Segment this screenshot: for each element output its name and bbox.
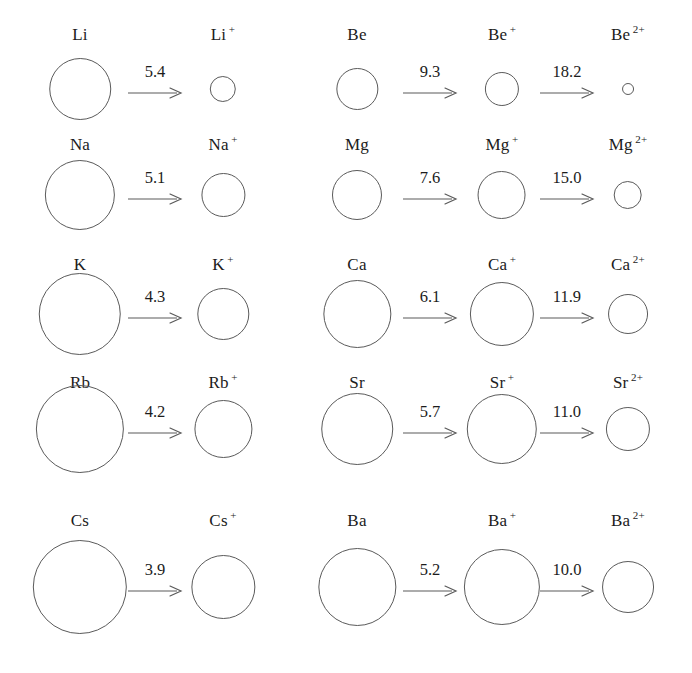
atom-circle xyxy=(332,170,382,220)
arrow-right-icon xyxy=(402,311,458,325)
atom-circle xyxy=(201,173,245,217)
element-symbol: K xyxy=(74,255,86,274)
atom-circle xyxy=(602,561,654,613)
ionization-energy-value: 5.7 xyxy=(402,404,458,421)
species-li-plus-group: Li+ xyxy=(211,26,235,47)
element-symbol: Cs xyxy=(209,511,227,530)
species-rb-plus-group: Rb+ xyxy=(208,374,237,395)
ionization-energy-value: 5.4 xyxy=(127,64,183,81)
species-na-group: Na xyxy=(70,136,90,157)
species-mg-plus-group: Mg+ xyxy=(486,136,519,157)
charge-superscript: + xyxy=(508,371,514,383)
arrow-right-icon xyxy=(402,426,458,440)
ionization-energy-value: 11.9 xyxy=(539,289,595,306)
charge-superscript: 2+ xyxy=(631,371,643,383)
species-label: Cs+ xyxy=(209,512,236,529)
arrow-right-icon xyxy=(539,426,595,440)
ionization-step: 10.0 xyxy=(539,562,595,598)
species-mg-group: Mg xyxy=(345,136,369,157)
atom-circle xyxy=(608,294,648,334)
element-symbol: Li xyxy=(72,25,88,44)
arrow-right-icon xyxy=(402,584,458,598)
element-symbol: Ba xyxy=(347,511,366,530)
species-label: Be+ xyxy=(488,26,516,43)
species-label: Sr xyxy=(349,374,365,391)
atom-circle xyxy=(45,160,115,230)
species-label: K xyxy=(74,256,86,273)
species-label: Mg2+ xyxy=(609,136,648,153)
element-symbol: Li xyxy=(211,25,227,44)
species-label: Ca+ xyxy=(488,256,516,273)
arrow-right-icon xyxy=(402,192,458,206)
ionization-step: 11.9 xyxy=(539,289,595,325)
atom-circle xyxy=(467,394,537,464)
species-mg-2plus-group: Mg2+ xyxy=(609,136,648,157)
species-label: K+ xyxy=(212,256,233,273)
atom-circle xyxy=(622,83,634,95)
atom-circle xyxy=(470,282,534,346)
atom-circle xyxy=(464,549,540,625)
ionization-energy-value: 9.3 xyxy=(402,64,458,81)
ionization-energy-value: 18.2 xyxy=(539,64,595,81)
charge-superscript: + xyxy=(231,133,237,145)
atom-circle xyxy=(485,72,519,106)
charge-superscript: 2+ xyxy=(633,509,645,521)
ionization-step: 9.3 xyxy=(402,64,458,100)
element-symbol: Ca xyxy=(611,255,630,274)
ionization-energy-value: 5.1 xyxy=(127,170,183,187)
ionization-step: 6.1 xyxy=(402,289,458,325)
charge-superscript: + xyxy=(231,371,237,383)
atom-circle xyxy=(323,280,391,348)
ionization-energy-value: 3.9 xyxy=(127,562,183,579)
atom-circle xyxy=(197,288,249,340)
atom-circle xyxy=(191,555,255,619)
element-symbol: Ba xyxy=(488,511,507,530)
ionization-step: 5.2 xyxy=(402,562,458,598)
atom-circle xyxy=(606,407,650,451)
species-ba-2plus-group: Ba2+ xyxy=(611,512,645,533)
species-ca-2plus-group: Ca2+ xyxy=(611,256,645,277)
element-symbol: Ca xyxy=(347,255,366,274)
species-label: Li xyxy=(72,26,88,43)
arrow-right-icon xyxy=(127,311,183,325)
element-symbol: Cs xyxy=(71,511,89,530)
arrow-right-icon xyxy=(539,584,595,598)
ionization-step: 11.0 xyxy=(539,404,595,440)
ionization-energy-value: 11.0 xyxy=(539,404,595,421)
charge-superscript: 2+ xyxy=(633,253,645,265)
species-k-group: K xyxy=(74,256,86,277)
species-sr-group: Sr xyxy=(349,374,365,395)
element-symbol: Mg xyxy=(345,135,369,154)
ionization-step: 5.1 xyxy=(127,170,183,206)
ionization-step: 15.0 xyxy=(539,170,595,206)
element-symbol: K xyxy=(212,255,224,274)
charge-superscript: 2+ xyxy=(633,23,645,35)
atom-circle xyxy=(39,273,121,355)
species-label: Sr2+ xyxy=(613,374,643,391)
species-cs-plus-group: Cs+ xyxy=(209,512,236,533)
atom-circle xyxy=(318,548,396,626)
species-label: Mg xyxy=(345,136,369,153)
ionization-energy-value: 6.1 xyxy=(402,289,458,306)
ionization-energy-value: 5.2 xyxy=(402,562,458,579)
species-rb-group: Rb xyxy=(70,374,90,395)
species-be-plus-group: Be+ xyxy=(488,26,516,47)
element-symbol: Na xyxy=(70,135,90,154)
species-label: Rb+ xyxy=(208,374,237,391)
charge-superscript: + xyxy=(510,253,516,265)
charge-superscript: + xyxy=(510,23,516,35)
species-label: Ba xyxy=(347,512,366,529)
ionization-step: 4.2 xyxy=(127,404,183,440)
species-sr-plus-group: Sr+ xyxy=(490,374,514,395)
species-label: Na+ xyxy=(208,136,237,153)
atom-circle xyxy=(36,385,124,473)
element-symbol: Be xyxy=(347,25,366,44)
species-ca-plus-group: Ca+ xyxy=(488,256,516,277)
arrow-right-icon xyxy=(539,311,595,325)
atom-circle xyxy=(614,181,642,209)
species-label: Be xyxy=(347,26,366,43)
atom-circle xyxy=(49,58,111,120)
atom-circle xyxy=(210,76,236,102)
species-ba-group: Ba xyxy=(347,512,366,533)
element-symbol: Mg xyxy=(609,135,633,154)
